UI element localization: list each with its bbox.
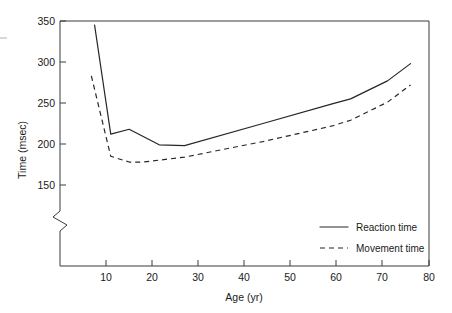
y-axis-ticks: [60, 21, 66, 185]
x-tick-label: 50: [284, 271, 296, 283]
x-tick-label: 80: [423, 271, 435, 283]
x-tick-label: 60: [330, 271, 342, 283]
x-tick-label: 20: [146, 271, 158, 283]
y-tick-label: 350: [37, 15, 55, 27]
legend-label-movement-time: Movement time: [356, 243, 425, 254]
x-axis-labels: 10 20 30 40 50 60 70 80: [100, 271, 435, 283]
series-reaction-time: [95, 25, 411, 146]
y-tick-label: 200: [37, 138, 55, 150]
x-tick-label: 40: [238, 271, 250, 283]
y-axis-title: Time (msec): [16, 121, 28, 179]
legend: Reaction time Movement time: [320, 222, 425, 254]
line-chart: 350 300 250 200 150 Time (msec) 10 20 30…: [0, 0, 452, 313]
y-tick-label: 150: [37, 179, 55, 191]
x-axis-title: Age (yr): [225, 291, 262, 303]
x-tick-label: 30: [192, 271, 204, 283]
series-movement-time: [91, 76, 410, 162]
legend-label-reaction-time: Reaction time: [356, 222, 418, 233]
figure-container: 350 300 250 200 150 Time (msec) 10 20 30…: [0, 0, 452, 313]
x-tick-label: 70: [376, 271, 388, 283]
y-axis-labels: 350 300 250 200 150: [37, 15, 55, 191]
x-axis-ticks: [106, 260, 429, 266]
y-tick-label: 250: [37, 97, 55, 109]
y-tick-label: 300: [37, 56, 55, 68]
scan-artifact: [0, 37, 7, 39]
x-tick-label: 10: [100, 271, 112, 283]
